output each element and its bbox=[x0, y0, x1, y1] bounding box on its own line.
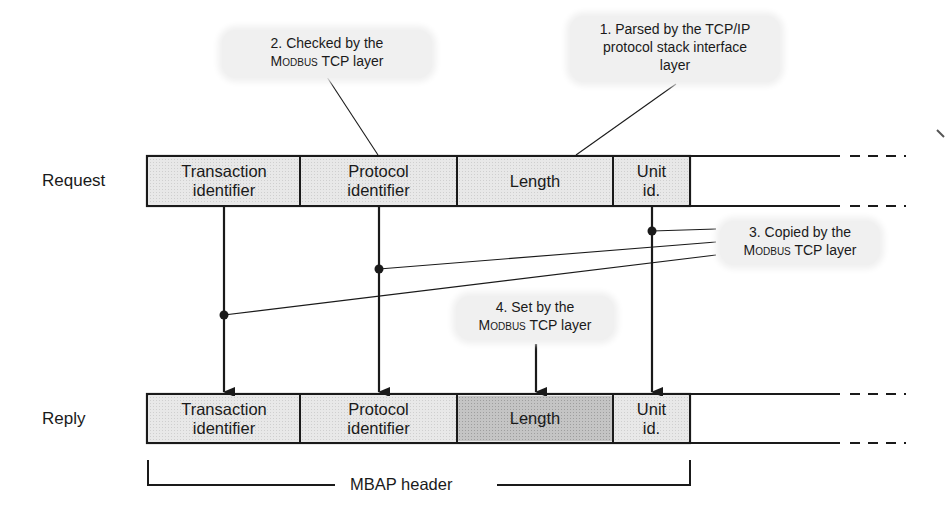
field-label-line1: Protocol bbox=[347, 162, 409, 181]
reply-row-label: Reply bbox=[42, 409, 85, 429]
callout-line2-rest: TCP layer bbox=[791, 242, 857, 258]
request-field-transaction-identifier: Transaction identifier bbox=[149, 158, 299, 204]
callout-line1: 3. Copied by the bbox=[720, 223, 880, 241]
request-field-length: Length bbox=[458, 158, 612, 204]
field-label-line1: Length bbox=[510, 409, 560, 428]
field-label-line2: identifier bbox=[347, 181, 409, 200]
field-label-line2: identifier bbox=[181, 419, 267, 438]
field-label-line1: Length bbox=[510, 172, 560, 191]
callout-line2-rest: TCP layer bbox=[318, 53, 384, 69]
field-label-line1: Protocol bbox=[347, 400, 409, 419]
callout-3-copied: 3. Copied by the Modbus TCP layer bbox=[720, 221, 880, 265]
modbus-smallcaps: Modbus bbox=[271, 53, 318, 69]
modbus-smallcaps: Modbus bbox=[744, 242, 791, 258]
field-label-line1: Transaction bbox=[181, 400, 267, 419]
field-label-line2: id. bbox=[637, 419, 666, 438]
modbus-smallcaps: Modbus bbox=[479, 317, 526, 333]
callout-line2-rest: TCP layer bbox=[526, 317, 592, 333]
mbap-header-label: MBAP header bbox=[342, 475, 460, 494]
callout-line2: protocol stack interface bbox=[570, 38, 780, 56]
field-label-line1: Unit bbox=[637, 162, 666, 181]
request-field-protocol-identifier: Protocol identifier bbox=[301, 158, 456, 204]
field-label-line1: Unit bbox=[637, 400, 666, 419]
callout-line1: 1. Parsed by the TCP/IP bbox=[570, 20, 780, 38]
reply-field-unit-id: Unit id. bbox=[614, 396, 689, 441]
reply-field-length: Length bbox=[458, 396, 612, 441]
field-label-line1: Transaction bbox=[181, 162, 267, 181]
mbap-diagram: Request Reply Transaction identifier Pro… bbox=[0, 0, 949, 526]
field-label-line2: id. bbox=[637, 181, 666, 200]
reply-field-protocol-identifier: Protocol identifier bbox=[301, 396, 456, 441]
callout-line2: Modbus TCP layer bbox=[720, 241, 880, 259]
request-field-unit-id: Unit id. bbox=[614, 158, 689, 204]
callout-line3: layer bbox=[570, 56, 780, 74]
callout-2-checked: 2. Checked by the Modbus TCP layer bbox=[222, 30, 432, 78]
callout-line1: 2. Checked by the bbox=[222, 34, 432, 52]
reply-field-transaction-identifier: Transaction identifier bbox=[149, 396, 299, 441]
field-label-line2: identifier bbox=[347, 419, 409, 438]
field-label-line2: identifier bbox=[181, 181, 267, 200]
request-row-label: Request bbox=[42, 171, 105, 191]
callout-line1: 4. Set by the bbox=[456, 298, 614, 316]
callout-1-parsed: 1. Parsed by the TCP/IP protocol stack i… bbox=[570, 16, 780, 82]
callout-4-set: 4. Set by the Modbus TCP layer bbox=[456, 296, 614, 340]
callout-line2: Modbus TCP layer bbox=[456, 316, 614, 334]
callout-line2: Modbus TCP layer bbox=[222, 52, 432, 70]
